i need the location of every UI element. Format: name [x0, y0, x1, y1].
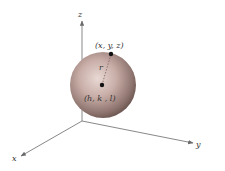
y-axis-label: y	[195, 140, 201, 149]
y-axis	[82, 121, 193, 143]
surface-point	[109, 52, 113, 56]
surface-point-label: (x, y, z)	[95, 41, 124, 50]
x-axis-label: x	[12, 154, 17, 163]
x-axis	[21, 121, 82, 156]
sphere-diagram: z y x (x, y, z) r (h, k , l)	[0, 0, 225, 171]
center-point-label: (h, k , l)	[84, 94, 116, 103]
z-axis-label: z	[77, 10, 83, 19]
center-point	[100, 83, 104, 87]
